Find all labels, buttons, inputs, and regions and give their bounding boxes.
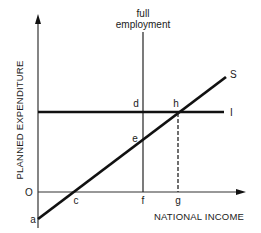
x-axis-label: NATIONAL INCOME	[154, 211, 244, 222]
point-d-label: d	[133, 98, 139, 109]
point-c-label: c	[74, 195, 79, 206]
savings-label: S	[230, 69, 237, 80]
savings-investment-diagram: PLANNED EXPENDITURE NATIONAL INCOME O fu…	[0, 0, 261, 233]
point-g-label: g	[175, 195, 181, 206]
full-employment-label-line2: employment	[116, 19, 171, 30]
point-e-label: e	[132, 133, 138, 144]
point-h-label: h	[173, 98, 179, 109]
y-axis	[35, 14, 41, 228]
origin-label: O	[25, 187, 33, 198]
full-employment-label-line1: full	[137, 8, 150, 19]
point-a-label: a	[30, 214, 36, 225]
x-axis-arrow-icon	[236, 189, 246, 195]
point-f-label: f	[142, 195, 145, 206]
y-axis-arrow-icon	[35, 14, 41, 24]
investment-label: I	[230, 107, 233, 118]
savings-line	[38, 77, 226, 219]
y-axis-label: PLANNED EXPENDITURE	[14, 61, 25, 180]
